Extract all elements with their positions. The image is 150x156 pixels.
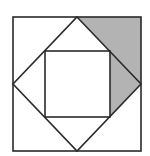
nested-squares-diagram — [0, 0, 150, 156]
diagram-canvas — [0, 0, 150, 156]
